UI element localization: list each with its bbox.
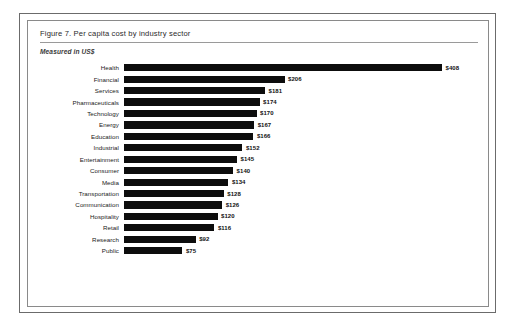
bar-row: Media$134 [40, 176, 478, 187]
bar-category-label: Industrial [40, 144, 124, 151]
bar [124, 190, 224, 197]
bar [124, 236, 196, 243]
bar [124, 201, 222, 208]
bar-category-label: Entertainment [40, 156, 124, 163]
bar [124, 110, 257, 117]
bar-category-label: Technology [40, 110, 124, 117]
bar [124, 156, 237, 163]
bar-value-label: $92 [196, 236, 210, 242]
bar [124, 179, 228, 186]
bar-track: $75 [124, 245, 478, 256]
bar-track: $134 [124, 176, 478, 187]
bar-track: $140 [124, 165, 478, 176]
bar [124, 167, 233, 174]
bar-category-label: Health [40, 64, 124, 71]
bar-row: Research$92 [40, 234, 478, 245]
bar [124, 213, 218, 220]
bar-category-label: Retail [40, 224, 124, 231]
bar-row: Public$75 [40, 245, 478, 256]
bar-track: $174 [124, 96, 478, 107]
bar-category-label: Consumer [40, 167, 124, 174]
bar-track: $206 [124, 73, 478, 84]
bar-value-label: $134 [228, 179, 245, 185]
bar-track: $145 [124, 154, 478, 165]
bar-value-label: $140 [233, 168, 250, 174]
bar-category-label: Financial [40, 76, 124, 83]
title-divider [40, 42, 478, 43]
bar-chart: Health$408Financial$206Services$181Pharm… [40, 62, 478, 256]
bar-row: Services$181 [40, 85, 478, 96]
bar-row: Financial$206 [40, 73, 478, 84]
figure-container: Figure 7. Per capita cost by industry se… [28, 21, 488, 306]
bar-value-label: $170 [257, 110, 274, 116]
bar-row: Communication$126 [40, 199, 478, 210]
bar-value-label: $408 [442, 65, 459, 71]
bar-category-label: Hospitality [40, 213, 124, 220]
bar-row: Industrial$152 [40, 142, 478, 153]
bar-track: $166 [124, 131, 478, 142]
bar-row: Hospitality$120 [40, 211, 478, 222]
bar [124, 64, 442, 71]
bar-track: $170 [124, 108, 478, 119]
bar-row: Consumer$140 [40, 165, 478, 176]
bar-category-label: Research [40, 236, 124, 243]
figure-subtitle: Measured in US$ [40, 48, 478, 55]
bar [124, 247, 182, 254]
bar-category-label: Pharmaceuticals [40, 99, 124, 106]
bar [124, 133, 253, 140]
bar-track: $181 [124, 85, 478, 96]
bar-track: $120 [124, 211, 478, 222]
bar-category-label: Communication [40, 201, 124, 208]
bar-track: $152 [124, 142, 478, 153]
bar-value-label: $126 [222, 202, 239, 208]
bar-value-label: $206 [285, 76, 302, 82]
bar-row: Energy$167 [40, 119, 478, 130]
scanned-page: Figure 7. Per capita cost by industry se… [0, 0, 515, 328]
figure-title: Figure 7. Per capita cost by industry se… [40, 29, 478, 42]
bar-value-label: $181 [265, 88, 282, 94]
bar-row: Entertainment$145 [40, 154, 478, 165]
bar-value-label: $116 [214, 225, 231, 231]
bar-category-label: Services [40, 87, 124, 94]
bar-row: Health$408 [40, 62, 478, 73]
bar-value-label: $166 [253, 133, 270, 139]
bar-value-label: $120 [218, 213, 235, 219]
bar-track: $167 [124, 119, 478, 130]
bar-track: $126 [124, 199, 478, 210]
bar-track: $408 [124, 62, 478, 73]
bar-row: Technology$170 [40, 108, 478, 119]
bar-value-label: $128 [224, 191, 241, 197]
bar-track: $128 [124, 188, 478, 199]
bar-row: Transportation$128 [40, 188, 478, 199]
bar [124, 144, 242, 151]
bar-track: $92 [124, 234, 478, 245]
bar-value-label: $152 [242, 145, 259, 151]
bar-category-label: Public [40, 247, 124, 254]
bar-category-label: Education [40, 133, 124, 140]
bar-category-label: Media [40, 179, 124, 186]
bar-value-label: $145 [237, 156, 254, 162]
bar-value-label: $75 [182, 248, 196, 254]
bar-category-label: Energy [40, 121, 124, 128]
bar [124, 121, 254, 128]
bar-row: Retail$116 [40, 222, 478, 233]
bar [124, 224, 214, 231]
bar-value-label: $174 [260, 99, 277, 105]
bar [124, 76, 285, 83]
bar-category-label: Transportation [40, 190, 124, 197]
bar [124, 87, 265, 94]
bar [124, 98, 260, 105]
bar-track: $116 [124, 222, 478, 233]
bar-value-label: $167 [254, 122, 271, 128]
bar-row: Education$166 [40, 131, 478, 142]
bar-row: Pharmaceuticals$174 [40, 96, 478, 107]
